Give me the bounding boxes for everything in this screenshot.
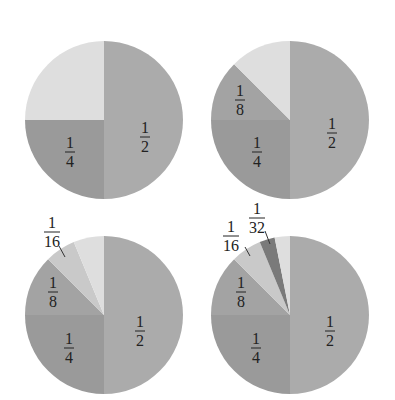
fraction-numerator: 1 <box>253 200 261 217</box>
fraction-label-1-4: 14 <box>65 134 75 170</box>
fraction-denominator: 4 <box>65 349 73 366</box>
pie-chart-bottom-left: 121418116 <box>25 214 183 394</box>
fraction-label-1-8: 18 <box>48 274 58 310</box>
pie-slice-1-4 <box>211 120 290 199</box>
fraction-numerator: 1 <box>252 330 260 347</box>
fraction-denominator: 8 <box>236 101 244 118</box>
fraction-label-1-4: 14 <box>251 330 261 366</box>
fraction-numerator: 1 <box>136 313 144 330</box>
fraction-label-1-4: 14 <box>252 134 262 170</box>
fraction-denominator: 4 <box>253 153 261 170</box>
fraction-numerator: 1 <box>49 274 57 291</box>
fraction-label-1-2: 12 <box>140 119 150 155</box>
fraction-label-1-8: 18 <box>235 82 245 118</box>
pie-slice-1-4 <box>211 315 290 394</box>
fraction-numerator: 1 <box>48 214 56 231</box>
fraction-denominator: 2 <box>328 134 336 151</box>
fraction-denominator: 4 <box>252 349 260 366</box>
fraction-denominator: 8 <box>237 293 245 310</box>
fraction-denominator: 2 <box>136 332 144 349</box>
fraction-label-1-2: 12 <box>135 313 145 349</box>
pie-charts-figure: 1214121418121418116121418116132 <box>0 0 395 400</box>
fraction-label-1-8: 18 <box>236 274 246 310</box>
fraction-label-1-2: 12 <box>327 115 337 151</box>
fraction-denominator: 32 <box>249 219 265 236</box>
fraction-numerator: 1 <box>66 134 74 151</box>
fraction-denominator: 16 <box>44 233 60 250</box>
fraction-denominator: 2 <box>141 138 149 155</box>
fraction-label-1-2: 12 <box>325 313 335 349</box>
pie-chart-bottom-right: 121418116132 <box>211 200 369 394</box>
fraction-denominator: 4 <box>66 153 74 170</box>
fraction-label-1-4: 14 <box>64 330 74 366</box>
fraction-denominator: 2 <box>326 332 334 349</box>
fraction-numerator: 1 <box>253 134 261 151</box>
pie-slice-remainder <box>25 41 104 120</box>
fraction-denominator: 8 <box>49 293 57 310</box>
fraction-numerator: 1 <box>328 115 336 132</box>
fraction-label-1-16: 116 <box>44 214 65 257</box>
pie-chart-top-right: 121418 <box>211 41 369 199</box>
fraction-numerator: 1 <box>227 218 235 235</box>
pie-slice-1-4 <box>25 120 104 199</box>
fraction-numerator: 1 <box>237 274 245 291</box>
fraction-denominator: 16 <box>223 237 239 254</box>
pie-charts-group: 1214121418121418116121418116132 <box>25 41 369 394</box>
fraction-numerator: 1 <box>141 119 149 136</box>
pie-chart-top-left: 1214 <box>25 41 183 199</box>
fraction-numerator: 1 <box>65 330 73 347</box>
fraction-numerator: 1 <box>326 313 334 330</box>
fraction-label-1-32: 132 <box>249 200 270 244</box>
fraction-numerator: 1 <box>236 82 244 99</box>
